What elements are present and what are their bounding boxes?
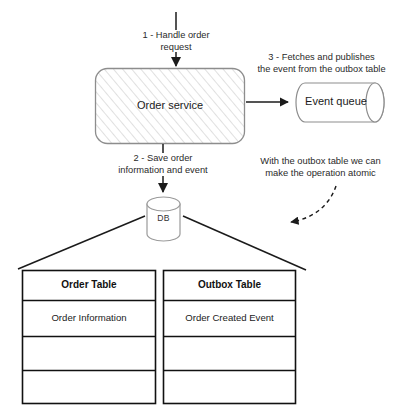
order-table-shape xyxy=(23,271,156,404)
outbox-table-shape xyxy=(164,271,296,404)
order-service-node-shape xyxy=(96,69,245,144)
arrow-atomic-annotation xyxy=(291,186,336,222)
diagram-canvas: 1 - Handle order request Order service 3… xyxy=(0,0,400,420)
diagram-vector-layer xyxy=(0,0,400,420)
event-queue-node-shape xyxy=(296,83,384,122)
database-node-shape xyxy=(147,197,180,241)
